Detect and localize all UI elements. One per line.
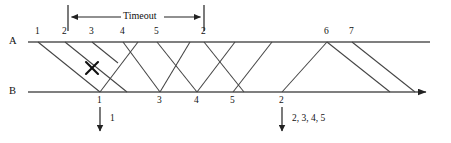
frame-7-line xyxy=(352,42,415,92)
sender-seq-label-2: 2 xyxy=(62,27,67,37)
receiver-seq-label-3: 3 xyxy=(157,96,162,106)
sender-seq-label-7: 7 xyxy=(349,27,354,37)
sender-seq-label-4: 4 xyxy=(120,27,125,37)
host-label-a: A xyxy=(9,36,17,47)
frame-4-line xyxy=(123,42,160,92)
sender-seq-label-3: 3 xyxy=(89,27,94,37)
receiver-seq-label-5: 5 xyxy=(230,96,235,106)
delivery-arrows-group xyxy=(100,107,282,131)
acks-up-group xyxy=(100,42,327,92)
sender-seq-label-5: 5 xyxy=(154,27,159,37)
sender-seq-label-1: 1 xyxy=(35,27,40,37)
ack-1-line xyxy=(100,42,138,92)
timeout-label: Timeout xyxy=(123,11,157,21)
sender-seq-label-2-retransmit: 2 xyxy=(201,27,206,37)
frames-down-group xyxy=(38,42,415,92)
frame-2-retransmit-line xyxy=(204,42,244,92)
receiver-seq-label-1: 1 xyxy=(97,96,102,106)
ack-5-line xyxy=(233,42,272,92)
protocol-timing-diagram: A B Timeout 1 2 3 4 5 2 6 7 1 3 4 5 2 1 … xyxy=(0,0,451,143)
sender-seq-label-6: 6 xyxy=(324,27,329,37)
frame-2-line xyxy=(65,42,127,92)
ack-4-line xyxy=(197,42,235,92)
delivery-label-1: 1 xyxy=(110,114,115,124)
ack-2-line xyxy=(282,42,327,92)
frame-3-line-lost xyxy=(92,42,118,63)
receiver-seq-label-2: 2 xyxy=(279,96,284,106)
frame-6-line xyxy=(327,42,390,92)
receiver-seq-label-4: 4 xyxy=(194,96,199,106)
host-label-b: B xyxy=(9,86,16,97)
frame-5-line xyxy=(157,42,197,92)
ack-3-line xyxy=(160,42,190,92)
delivery-label-2345: 2, 3, 4, 5 xyxy=(292,114,325,124)
diagram-canvas xyxy=(0,0,451,143)
